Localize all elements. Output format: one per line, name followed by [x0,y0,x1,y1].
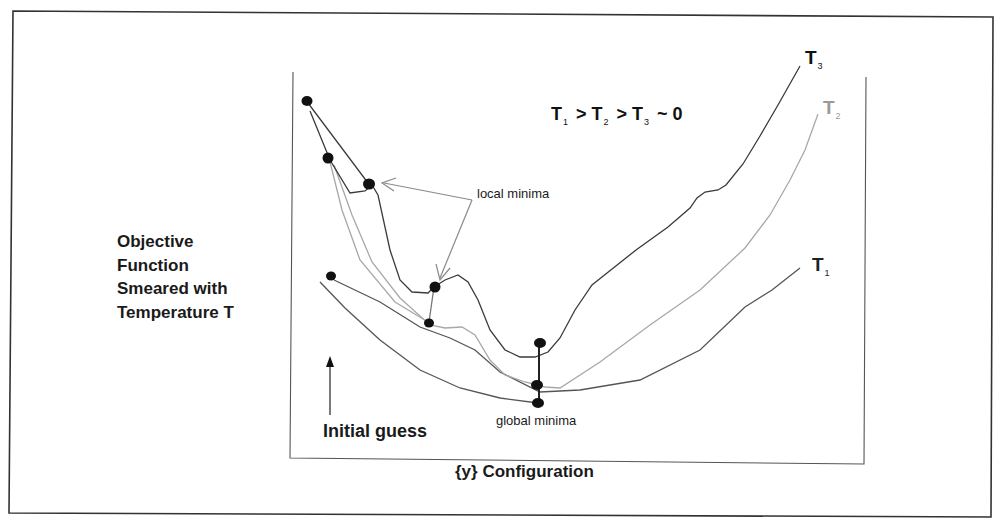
relation-sub-1: 1 [563,117,568,127]
t3-main: T [805,47,817,68]
y-label-line-4: Temperature T [117,301,287,325]
t1-curve [334,268,800,392]
relation-approx-zero: ~ 0 [652,104,683,124]
dot-t2-local [424,319,434,328]
dot-local-min-1 [363,179,375,190]
dot-t2-global [531,380,543,390]
curve-label-t3: T3 [805,47,826,71]
y-label-line-3: Smeared with [117,277,287,301]
initial-guess-label: Initial guess [323,421,427,442]
t2-sub: 2 [836,111,841,121]
dot-t2-start [323,153,334,164]
local-minima-arrow-1 [384,183,472,200]
global-minima-label: global minima [496,413,576,428]
dot-t1-start [326,272,336,281]
local-minima-arrow-2 [440,200,472,278]
dot-t1-global [532,398,544,408]
y-label-line-1: Objective [117,230,287,254]
relation-sub-2: 2 [604,117,609,127]
local-minima-label: local minima [477,186,549,201]
relation-gt-t-2: > T [612,104,644,124]
relation-sub-3: 3 [644,117,649,127]
curve-label-t2: T2 [823,97,844,121]
x-axis-label: {y} Configuration [455,462,594,482]
t1-outer-curve [320,282,538,403]
t1-main: T [812,254,824,275]
dot-t3-global [534,338,546,348]
curve-label-t1: T1 [812,254,833,278]
relation-gt-t: > T [571,104,603,124]
t2-curve [334,114,818,388]
local-drop-line [429,287,434,322]
temperature-relation: T1 > T2 > T3 ~ 0 [551,104,683,127]
t2-main: T [823,97,835,118]
dot-local-min-2 [430,282,441,293]
t2-curve-inner [330,162,428,322]
arrowhead-up-icon [326,356,334,367]
t3-sub: 3 [818,61,823,71]
t1-sub: 1 [825,268,830,278]
relation-t: T [551,104,562,124]
y-label-line-2: Function [117,254,287,278]
t3-curve-upper [308,103,368,183]
y-axis-label: Objective Function Smeared with Temperat… [117,230,287,324]
dot-t3-start [302,96,313,106]
